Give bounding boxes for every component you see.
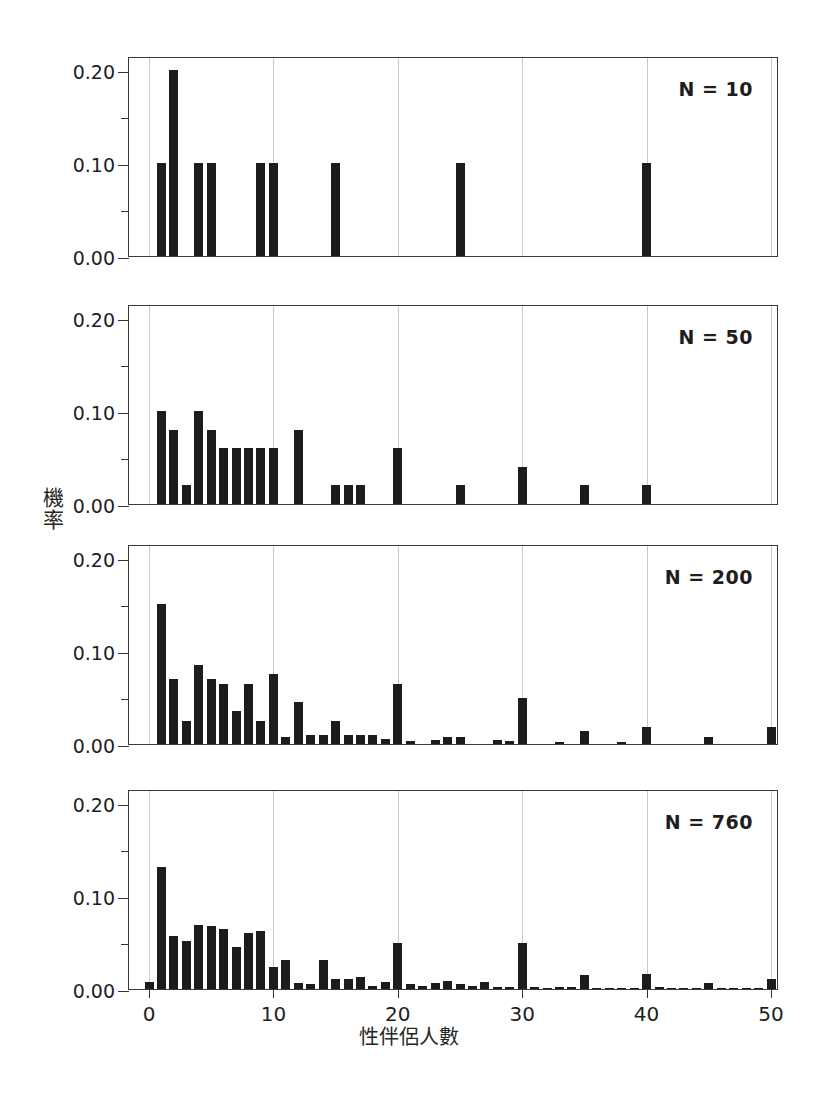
bar — [642, 485, 651, 504]
bar — [145, 982, 154, 989]
bar — [456, 485, 465, 504]
bar — [580, 975, 589, 989]
y-tick-major — [118, 746, 129, 747]
bar — [331, 721, 340, 744]
bar — [269, 674, 278, 744]
bar — [742, 988, 751, 990]
y-tick-label: 0.20 — [73, 549, 115, 571]
bar — [580, 731, 589, 744]
gridline-x-10 — [273, 791, 274, 989]
gridline-x-50 — [771, 791, 772, 989]
y-tick-major — [118, 560, 129, 561]
bar — [157, 411, 166, 504]
x-axis-label: 性伴侶人數 — [0, 1021, 817, 1050]
bar — [493, 740, 502, 744]
y-tick-label: 0.10 — [73, 642, 115, 664]
bar — [493, 987, 502, 989]
bar — [356, 977, 365, 989]
bar — [717, 988, 726, 990]
gridline-x-40 — [647, 546, 648, 744]
bar — [331, 163, 340, 256]
gridline-x-50 — [771, 546, 772, 744]
bar — [169, 70, 178, 256]
bar — [256, 721, 265, 744]
x-tick — [149, 989, 150, 998]
bar — [368, 986, 377, 989]
bar — [182, 941, 191, 989]
panel-n-annotation: N = 760 — [665, 811, 753, 833]
y-tick-major — [118, 72, 129, 73]
bar — [605, 988, 614, 990]
bar — [431, 740, 440, 744]
y-tick-minor — [121, 606, 129, 607]
chart-panel-1: 0.000.100.20N = 10 — [128, 57, 778, 257]
gridline-x-0 — [149, 791, 150, 989]
bar — [754, 988, 763, 990]
bar — [344, 979, 353, 989]
gridline-x-40 — [647, 306, 648, 504]
bar — [157, 604, 166, 744]
bar — [468, 986, 477, 989]
y-tick-minor — [121, 944, 129, 945]
bar — [244, 684, 253, 744]
y-axis-label-char-1: 機 — [36, 487, 70, 509]
bar — [344, 735, 353, 744]
bar — [381, 982, 390, 989]
bar — [331, 485, 340, 504]
bar — [194, 163, 203, 256]
bar — [505, 741, 514, 744]
chart-panel-3: 0.000.100.20N = 200 — [128, 545, 778, 745]
x-tick — [647, 989, 648, 998]
bar — [281, 960, 290, 989]
bar — [232, 711, 241, 744]
y-tick-major — [118, 805, 129, 806]
y-tick-major — [118, 258, 129, 259]
bar — [256, 448, 265, 504]
x-tick — [398, 989, 399, 998]
bar — [443, 737, 452, 744]
y-tick-label: 0.20 — [73, 794, 115, 816]
gridline-x-50 — [771, 306, 772, 504]
bar — [431, 983, 440, 990]
bar — [157, 163, 166, 256]
bar — [207, 679, 216, 744]
x-tick — [522, 989, 523, 998]
y-tick-label: 0.10 — [73, 154, 115, 176]
bar — [456, 984, 465, 989]
bar — [219, 684, 228, 744]
bar — [157, 867, 166, 989]
bar — [169, 679, 178, 744]
bar — [182, 721, 191, 744]
bar — [692, 988, 701, 990]
bar — [655, 987, 664, 989]
bar — [704, 737, 713, 744]
bar — [256, 163, 265, 256]
y-tick-label: 0.10 — [73, 887, 115, 909]
bar — [219, 929, 228, 989]
bar — [592, 988, 601, 990]
y-tick-minor — [121, 699, 129, 700]
y-tick-label: 0.00 — [73, 980, 115, 1002]
bar — [281, 737, 290, 744]
panel-n-annotation: N = 10 — [679, 78, 754, 100]
bar — [356, 485, 365, 504]
bar — [232, 448, 241, 504]
bar — [319, 735, 328, 744]
figure-container: 機 率 0.000.100.20N = 100.000.100.20N = 50… — [0, 0, 817, 1099]
bar — [418, 986, 427, 989]
bar — [406, 984, 415, 989]
y-tick-minor — [121, 459, 129, 460]
bar — [331, 979, 340, 989]
gridline-x-0 — [149, 306, 150, 504]
y-tick-label: 0.10 — [73, 402, 115, 424]
bar — [393, 684, 402, 744]
gridline-x-30 — [522, 58, 523, 256]
bar — [232, 947, 241, 989]
plot-area: 0.000.100.2001020304050N = 760 — [128, 790, 778, 990]
bar — [667, 988, 676, 990]
y-tick-major — [118, 653, 129, 654]
y-tick-major — [118, 320, 129, 321]
y-tick-label: 0.00 — [73, 495, 115, 517]
y-tick-minor — [121, 851, 129, 852]
y-tick-label: 0.20 — [73, 309, 115, 331]
